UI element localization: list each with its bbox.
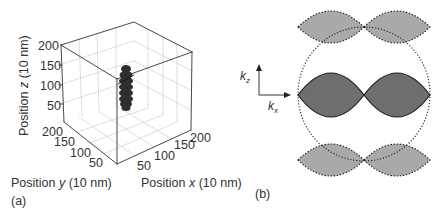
panel-b-diagram	[256, 11, 430, 176]
panel-a-cube	[59, 22, 192, 164]
arrow-right-icon	[284, 92, 291, 98]
y-tick-50: 50	[89, 157, 103, 170]
x-tick-200: 200	[190, 132, 211, 145]
z-tick-150: 150	[40, 60, 61, 73]
panel-a-label: (a)	[11, 195, 26, 208]
nanostructure-stack	[118, 65, 134, 111]
x-tick-50: 50	[137, 160, 151, 173]
z-tick-50: 50	[47, 100, 61, 113]
lower-lens-pair	[298, 144, 430, 176]
y-axis-label: Position y (10 nm)	[11, 177, 112, 190]
kx-label: kx	[268, 100, 278, 115]
k-axes	[256, 64, 291, 98]
x-tick-100: 100	[154, 150, 175, 163]
central-lens-pair	[298, 73, 430, 117]
z-axis-label: Position z (10 nm)	[18, 35, 31, 136]
panel-b-label: (b)	[255, 188, 270, 201]
arrow-up-icon	[256, 64, 262, 71]
y-tick-100: 100	[70, 147, 91, 160]
z-tick-200: 200	[38, 40, 59, 53]
x-axis-label: Position x (10 nm)	[141, 177, 242, 190]
kz-label: kz	[240, 70, 250, 85]
z-tick-100: 100	[40, 80, 61, 93]
